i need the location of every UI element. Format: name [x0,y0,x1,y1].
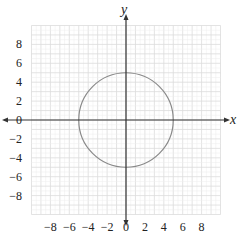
coordinate-plane: −8−6−4−20246886420−2−4−6−8 x y [0,0,240,232]
y-tick-label: −6 [9,170,22,184]
x-tick-label: −6 [63,220,76,232]
x-tick-label: 6 [180,220,186,232]
x-tick-label: −8 [44,220,57,232]
y-tick-label: −4 [9,151,22,165]
x-arrow-left-icon [2,118,8,123]
y-tick-label: 6 [16,56,22,70]
y-tick-label: 0 [16,113,22,127]
x-tick-label: 0 [123,220,129,232]
y-tick-label: −8 [9,189,22,203]
y-tick-label: 4 [16,75,22,89]
x-tick-label: −4 [82,220,95,232]
x-tick-label: 2 [142,220,148,232]
x-tick-label: 8 [199,220,205,232]
x-tick-label: −2 [101,220,114,232]
y-tick-label: 8 [16,37,22,51]
y-axis-label: y [119,2,128,17]
x-axis-label: x [229,112,237,127]
x-tick-label: 4 [161,220,167,232]
y-tick-label: −2 [9,132,22,146]
y-tick-label: 2 [16,94,22,108]
